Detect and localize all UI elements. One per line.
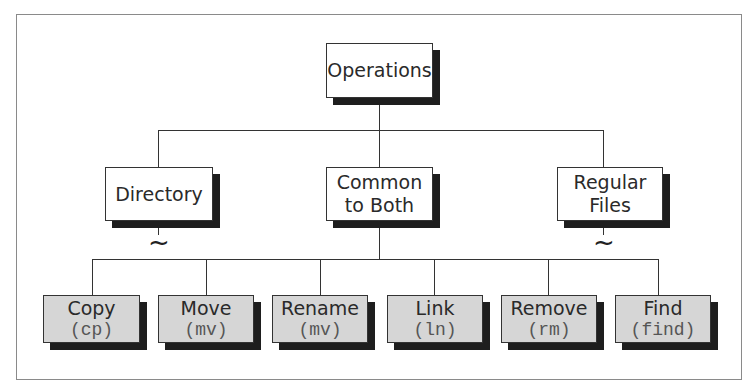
copy-label: Copy	[67, 297, 115, 320]
tilde-regular-files: ~	[593, 232, 615, 252]
connector-directory-up	[158, 130, 159, 167]
tilde-directory: ~	[148, 232, 170, 252]
rename-label: Rename	[281, 297, 359, 320]
common-to-both-node: Common to Both	[326, 167, 433, 221]
connector-common-down	[379, 227, 380, 259]
link-label: Link	[416, 297, 455, 320]
remove-label: Remove	[510, 297, 587, 320]
connector-link	[434, 259, 435, 295]
common-label-line2: to Both	[345, 194, 414, 217]
connector-root-down	[379, 104, 380, 130]
connector-remove	[548, 259, 549, 295]
find-node: Find (find)	[615, 295, 711, 343]
find-label: Find	[644, 297, 683, 320]
rename-node: Rename (mv)	[272, 295, 368, 343]
connector-copy	[92, 259, 93, 295]
link-node: Link (ln)	[387, 295, 483, 343]
link-command: (ln)	[413, 320, 456, 341]
remove-command: (rm)	[527, 320, 570, 341]
move-node: Move (mv)	[158, 295, 254, 343]
remove-node: Remove (rm)	[501, 295, 597, 343]
regular-files-label-line1: Regular	[574, 171, 647, 194]
move-command: (mv)	[184, 320, 227, 341]
rename-command: (mv)	[298, 320, 341, 341]
directory-label: Directory	[115, 183, 203, 206]
connector-find	[658, 259, 659, 295]
connector-common-up	[379, 130, 380, 167]
move-label: Move	[181, 297, 232, 320]
connector-move	[206, 259, 207, 295]
regular-files-label-line2: Files	[589, 194, 631, 217]
connector-level2-bar	[92, 259, 659, 260]
copy-command: (cp)	[70, 320, 113, 341]
directory-node: Directory	[105, 167, 213, 221]
find-command: (find)	[631, 320, 696, 341]
operations-node: Operations	[326, 43, 433, 98]
connector-regular-up	[603, 130, 604, 167]
regular-files-node: Regular Files	[557, 167, 663, 221]
operations-label: Operations	[327, 59, 431, 82]
copy-node: Copy (cp)	[43, 295, 140, 343]
connector-level1-bar	[158, 130, 604, 131]
connector-rename	[320, 259, 321, 295]
common-label-line1: Common	[337, 171, 423, 194]
